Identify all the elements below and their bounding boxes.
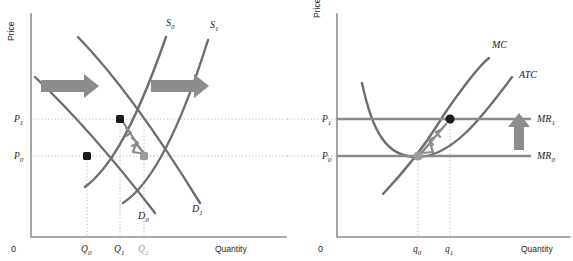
panel-firm: Price and cost Quantity 0 P1 P0 q0 q1 MC xyxy=(287,0,573,261)
curve-label-d1: D1 xyxy=(191,203,203,217)
y-axis-label: Price and cost xyxy=(312,0,322,18)
curve-label-s0: S0 xyxy=(166,17,175,31)
svg-text:ATC: ATC xyxy=(518,69,537,80)
curve-supply-1 xyxy=(123,40,208,203)
x-axis-label: Quantity xyxy=(215,244,247,254)
point-intermediate-equilibrium xyxy=(116,115,124,123)
curve-label-d0: D0 xyxy=(137,210,149,224)
curve-label-mr0: MR0 xyxy=(536,150,555,164)
svg-text:S1: S1 xyxy=(210,19,219,33)
svg-text:Q0: Q0 xyxy=(81,244,92,257)
x-tick-q1: Q1 xyxy=(114,244,124,257)
guide-lines xyxy=(31,119,287,237)
origin-label: 0 xyxy=(318,244,323,254)
svg-text:MC: MC xyxy=(491,39,507,50)
x-tick-q2: Q2 xyxy=(138,244,149,257)
x-tick-q0: Q0 xyxy=(81,244,92,257)
svg-text:D0: D0 xyxy=(137,210,149,224)
svg-text:q0: q0 xyxy=(413,244,422,257)
origin-label: 0 xyxy=(11,244,16,254)
economics-figure: Price Quantity 0 P1 P0 Q0 Q1 Q2 xyxy=(0,0,573,261)
curve-label-atc: ATC xyxy=(518,69,537,80)
firm-chart-svg: Price and cost Quantity 0 P1 P0 q0 q1 MC xyxy=(287,0,573,261)
svg-text:Q2: Q2 xyxy=(138,244,149,257)
svg-text:MR0: MR0 xyxy=(536,150,555,164)
x-tick-q0: q0 xyxy=(413,244,422,257)
panel-market: Price Quantity 0 P1 P0 Q0 Q1 Q2 xyxy=(0,0,287,261)
svg-text:S0: S0 xyxy=(166,17,175,31)
svg-text:P0: P0 xyxy=(321,151,332,164)
svg-text:D1: D1 xyxy=(191,203,203,217)
price-adjustment-arrow xyxy=(123,122,145,154)
y-tick-p1: P1 xyxy=(13,114,23,127)
curve-label-mc: MC xyxy=(491,39,507,50)
svg-text:P1: P1 xyxy=(13,114,23,127)
point-new-profit-max xyxy=(445,114,454,123)
axis-lines xyxy=(31,14,286,237)
svg-text:P1: P1 xyxy=(321,114,331,127)
market-chart-svg: Price Quantity 0 P1 P0 Q0 Q1 Q2 xyxy=(0,0,287,261)
svg-text:q1: q1 xyxy=(445,244,453,257)
curve-atc xyxy=(362,77,512,157)
y-axis-label: Price xyxy=(6,21,16,41)
supply-shift-arrow xyxy=(151,74,209,98)
svg-text:P0: P0 xyxy=(13,151,24,164)
y-tick-p0: P0 xyxy=(321,151,332,164)
y-tick-p0: P0 xyxy=(13,151,24,164)
demand-shift-arrow xyxy=(41,74,99,98)
point-initial-equilibrium xyxy=(83,152,91,160)
x-axis-label: Quantity xyxy=(521,244,553,254)
curve-label-mr1: MR1 xyxy=(536,113,555,127)
curve-label-s1: S1 xyxy=(210,19,219,33)
axis-lines xyxy=(337,14,570,237)
x-tick-q1: q1 xyxy=(445,244,453,257)
svg-text:Q1: Q1 xyxy=(114,244,124,257)
svg-text:MR1: MR1 xyxy=(536,113,555,127)
point-zero-profit xyxy=(413,151,422,160)
guide-lines xyxy=(287,119,450,237)
y-tick-p1: P1 xyxy=(321,114,331,127)
output-adjustment-arrow xyxy=(421,124,446,153)
point-new-equilibrium xyxy=(140,152,148,160)
